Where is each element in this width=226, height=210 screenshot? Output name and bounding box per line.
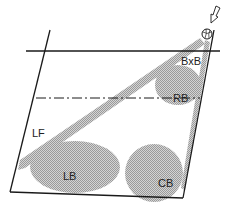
cb-zone-shade [125, 144, 183, 202]
arrow-down-icon [211, 6, 220, 23]
lb-zone-shade [30, 141, 120, 193]
zone-label-lb: LB [63, 170, 76, 182]
zone-label-lf: LF [32, 127, 45, 139]
court-diagram: BxB RB LF LB CB [0, 0, 226, 210]
zone-label-cb: CB [158, 177, 173, 189]
zone-label-rb: RB [173, 92, 188, 104]
zone-label-bxb: BxB [181, 55, 201, 67]
volleyball-icon [202, 29, 212, 39]
